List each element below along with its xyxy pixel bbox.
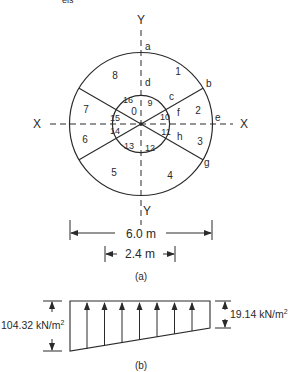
partial-caption: eis	[62, 0, 74, 5]
foundation-diagram: eis X X Y Y a b c d e f g h 1 2 3 4 5 6 …	[0, 0, 294, 372]
point-g: g	[204, 157, 210, 168]
y-axis-label-bottom: Y	[143, 204, 151, 218]
point-e: e	[215, 112, 221, 123]
center-point	[139, 122, 143, 126]
segment-14: 14	[110, 126, 120, 136]
segment-16: 16	[123, 95, 133, 105]
segment-11: 11	[161, 127, 170, 137]
segment-2: 2	[195, 105, 201, 116]
segment-4: 4	[167, 170, 173, 181]
point-c: c	[169, 91, 174, 102]
dim-outer-label: 6.0 m	[126, 227, 156, 241]
segment-7: 7	[83, 104, 89, 115]
segment-5: 5	[111, 167, 117, 178]
dim-inner-label: 2.4 m	[125, 247, 155, 261]
x-axis-label-right: X	[240, 117, 248, 131]
plan-view: X X Y Y a b c d e f g h 1 2 3 4 5 6 7 8 …	[33, 13, 248, 282]
segment-8: 8	[112, 70, 118, 81]
caption-a: (a)	[135, 271, 147, 282]
y-axis-label-top: Y	[137, 13, 145, 27]
segment-3: 3	[197, 136, 203, 147]
point-a: a	[145, 41, 151, 52]
segment-13: 13	[124, 141, 134, 151]
right-pressure-label: 19.14 kN/m2	[230, 308, 288, 320]
segment-10: 10	[160, 112, 170, 122]
left-pressure-label: 104.32 kN/m2	[1, 319, 65, 331]
caption-b: (b)	[135, 360, 147, 371]
segment-6: 6	[82, 134, 88, 145]
segment-12: 12	[145, 143, 155, 153]
segment-1: 1	[175, 66, 181, 77]
segment-15: 15	[110, 113, 120, 123]
segment-9: 9	[147, 98, 152, 108]
point-d: d	[145, 77, 151, 88]
point-h: h	[177, 131, 183, 142]
center-label: 0	[131, 106, 137, 117]
point-f: f	[177, 107, 180, 118]
point-b: b	[206, 78, 212, 89]
pressure-diagram: 104.32 kN/m2 19.14 kN/m2 (b)	[1, 301, 288, 371]
x-axis-label-left: X	[33, 117, 41, 131]
